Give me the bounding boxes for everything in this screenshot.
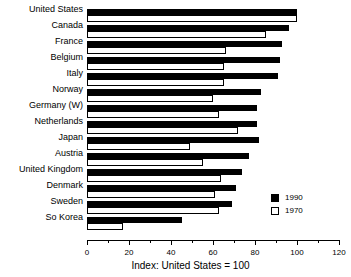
x-tick-major — [87, 240, 88, 245]
legend-item: 1970 — [271, 205, 341, 218]
bar-group — [87, 137, 339, 151]
x-tick-major — [213, 240, 214, 245]
x-tick-minor — [192, 240, 193, 243]
bar-1970 — [87, 63, 224, 70]
x-tick-label: 80 — [251, 248, 260, 257]
category-label: France — [0, 36, 83, 46]
bar-1970 — [87, 191, 215, 198]
x-tick-label: 120 — [332, 248, 345, 257]
x-tick-label: 40 — [167, 248, 176, 257]
category-label: So Korea — [0, 212, 83, 222]
bar-1970 — [87, 127, 238, 134]
category-label: United States — [0, 4, 83, 14]
bar-group — [87, 153, 339, 167]
index-bar-chart: United StatesCanadaFranceBelgiumItalyNor… — [0, 0, 351, 277]
x-tick-minor — [276, 240, 277, 243]
category-label: Belgium — [0, 52, 83, 62]
x-tick-label: 60 — [209, 248, 218, 257]
x-tick-minor — [150, 240, 151, 243]
x-tick-major — [171, 240, 172, 245]
legend-swatch-1990 — [271, 194, 279, 202]
bar-group — [87, 121, 339, 135]
x-tick-major — [297, 240, 298, 245]
x-tick-label: 0 — [85, 248, 89, 257]
x-axis — [87, 240, 339, 248]
category-axis-labels: United StatesCanadaFranceBelgiumItalyNor… — [0, 0, 83, 240]
bar-1970 — [87, 47, 226, 54]
x-tick-label: 100 — [290, 248, 303, 257]
x-tick-minor — [318, 240, 319, 243]
x-tick-major — [255, 240, 256, 245]
bar-group — [87, 89, 339, 103]
x-tick-label: 20 — [125, 248, 134, 257]
legend-label: 1990 — [285, 193, 303, 203]
bar-1970 — [87, 79, 224, 86]
bar-1970 — [87, 159, 203, 166]
x-tick-major — [129, 240, 130, 245]
bar-group — [87, 57, 339, 71]
bar-group — [87, 217, 339, 231]
x-tick-major — [339, 240, 340, 245]
bar-group — [87, 169, 339, 183]
legend-item: 1990 — [271, 192, 341, 205]
chart-legend: 19901970 — [271, 192, 341, 218]
bar-group — [87, 41, 339, 55]
bar-group — [87, 9, 339, 23]
category-label: Japan — [0, 132, 83, 142]
x-tick-minor — [108, 240, 109, 243]
bar-1970 — [87, 223, 123, 230]
legend-label: 1970 — [285, 206, 303, 216]
bar-1970 — [87, 31, 266, 38]
bar-group — [87, 25, 339, 39]
bar-1970 — [87, 111, 219, 118]
category-label: Austria — [0, 148, 83, 158]
category-label: Germany (W) — [0, 100, 83, 110]
category-label: Denmark — [0, 180, 83, 190]
bar-group — [87, 73, 339, 87]
bar-group — [87, 105, 339, 119]
category-label: Canada — [0, 20, 83, 30]
x-tick-minor — [234, 240, 235, 243]
bar-1970 — [87, 143, 190, 150]
bar-1970 — [87, 175, 221, 182]
category-label: Norway — [0, 84, 83, 94]
category-label: Sweden — [0, 196, 83, 206]
category-label: United Kingdom — [0, 164, 83, 174]
category-label: Netherlands — [0, 116, 83, 126]
legend-swatch-1970 — [271, 207, 279, 215]
x-axis-title: Index: United States = 100 — [0, 260, 351, 272]
bar-1970 — [87, 15, 297, 22]
bar-1970 — [87, 207, 219, 214]
category-label: Italy — [0, 68, 83, 78]
bar-1970 — [87, 95, 213, 102]
